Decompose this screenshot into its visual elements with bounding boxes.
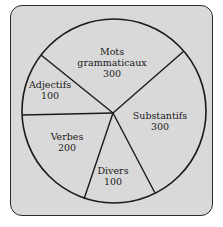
slice-value: 300 <box>151 121 169 132</box>
slice-label: Substantifs <box>133 110 188 121</box>
slice-label: Verbes <box>50 131 84 142</box>
slice-value: 200 <box>58 142 76 153</box>
slice-label: Mots <box>100 46 124 57</box>
slice-label: Adjectifs <box>28 79 71 90</box>
slice-value: 100 <box>104 176 122 187</box>
slice-label-line2: grammaticaux <box>77 57 147 68</box>
slice-value: 100 <box>41 90 59 101</box>
slice-label: Divers <box>97 165 128 176</box>
slice-value: 300 <box>103 68 121 79</box>
pie-chart: Mots grammaticaux 300 Substantifs 300 Di… <box>0 0 223 227</box>
